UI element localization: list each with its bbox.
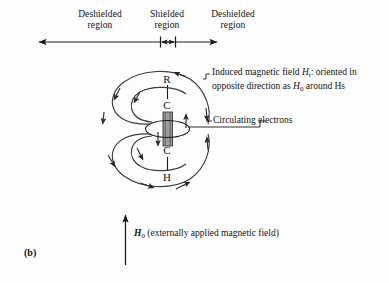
field-arrow-left-mid — [103, 112, 104, 122]
field-line-right-lobe-lower — [190, 134, 209, 179]
callout-induced-line2-suffix: around Hs — [303, 81, 345, 91]
field-arrow-right-lower — [207, 139, 208, 150]
field-arrow-bottom — [140, 183, 152, 187]
callout-induced-line2-prefix: opposite direction as — [212, 81, 293, 91]
figure-panel-b: Deshielded region Shielded region Deshie… — [0, 0, 389, 283]
callout-induced-line1: Induced magnetic field Hi: oriented in — [212, 67, 388, 81]
applied-field-text: (externally applied magnetic field) — [145, 228, 279, 238]
induced-field-lines — [112, 71, 209, 186]
molecule-bonds — [163, 85, 173, 171]
label-applied-magnetic-field: H0 (externally applied magnetic field) — [134, 228, 279, 240]
callout-induced-line2-symbol: H — [293, 81, 300, 91]
callout-induced-magnetic-field: Induced magnetic field Hi: oriented in o… — [212, 67, 388, 95]
field-arrow-top — [176, 73, 186, 77]
span-ruler — [39, 37, 217, 48]
callout-circulating-electrons: Circulating electrons — [213, 115, 292, 127]
callout-induced-prefix: Induced magnetic field — [212, 67, 302, 77]
callout-induced-symbol: H — [302, 67, 309, 77]
leader-induced-field — [203, 74, 210, 79]
field-line-left-lobe-lower — [112, 134, 190, 187]
panel-label: (b) — [24, 247, 36, 258]
atom-label-c-upper: C — [160, 100, 174, 111]
atom-label-c-lower: C — [160, 145, 174, 156]
field-line-left-lobe — [112, 71, 190, 124]
atom-label-r: R — [160, 74, 174, 85]
callout-induced-middle: : oriented in — [311, 67, 357, 77]
field-arrow-right-upper — [206, 108, 207, 119]
atom-label-h: H — [160, 172, 174, 183]
triple-bond-pi-cloud — [163, 112, 173, 146]
diagram-artwork — [0, 0, 389, 283]
field-arrow-inner-lower-left — [137, 148, 142, 158]
callout-induced-line2: opposite direction as H0 around Hs — [212, 81, 388, 95]
